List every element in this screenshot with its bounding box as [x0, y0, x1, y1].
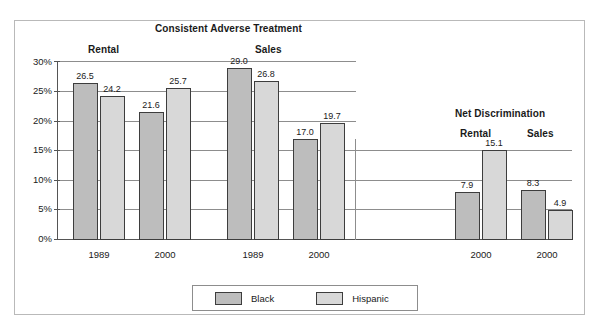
bar-sales-1989-black[interactable] — [227, 68, 252, 240]
y-tick-mark-30 — [54, 61, 60, 62]
section-label-sales-1: Sales — [255, 44, 282, 55]
y-tick-mark-25 — [54, 91, 60, 92]
legend-label-hispanic: Hispanic — [352, 293, 388, 304]
x-label-sales-1989: 1989 — [233, 249, 273, 260]
value-label-net-rental-2000-black: 7.9 — [452, 180, 482, 190]
y-tick-label-5: 5% — [18, 203, 52, 214]
value-label-sales-1989-black: 29.0 — [224, 56, 254, 66]
y-tick-mark-20 — [54, 121, 60, 122]
value-label-net-sales-2000-black: 8.3 — [518, 178, 548, 188]
x-label-sales-2000: 2000 — [299, 249, 339, 260]
y-tick-label-15: 15% — [18, 144, 52, 155]
legend-item-black[interactable]: Black — [215, 292, 274, 305]
page-title: Consistent Adverse Treatment — [155, 23, 302, 34]
bar-net-rental-2000-black[interactable] — [455, 192, 480, 240]
x-label-rental-1989: 1989 — [79, 249, 119, 260]
value-label-net-sales-2000-hispanic: 4.9 — [545, 198, 575, 208]
x-label-rental-2000: 2000 — [145, 249, 185, 260]
value-label-rental-2000-black: 21.6 — [136, 100, 166, 110]
section-label-rental-1: Rental — [88, 44, 119, 55]
y-tick-label-20: 20% — [18, 115, 52, 126]
legend-item-hispanic[interactable]: Hispanic — [316, 292, 388, 305]
y-tick-label-10: 10% — [18, 174, 52, 185]
bar-rental-2000-black[interactable] — [139, 112, 164, 240]
section-title-net-discrimination: Net Discrimination — [455, 108, 545, 119]
legend-swatch-hispanic-icon — [316, 292, 343, 305]
panel-divider — [355, 139, 356, 240]
bar-net-sales-2000-black[interactable] — [521, 190, 546, 240]
x-label-net-rental-2000: 2000 — [461, 249, 501, 260]
bar-rental-1989-hispanic[interactable] — [100, 96, 125, 240]
chart-legend: Black Hispanic — [192, 285, 418, 311]
value-label-sales-2000-black: 17.0 — [290, 127, 320, 137]
y-tick-mark-0 — [54, 239, 60, 240]
bar-sales-2000-hispanic[interactable] — [320, 123, 345, 240]
legend-label-black: Black — [251, 293, 274, 304]
value-label-rental-1989-hispanic: 24.2 — [97, 84, 127, 94]
bar-rental-2000-hispanic[interactable] — [166, 88, 191, 240]
bar-net-sales-2000-hispanic[interactable] — [548, 210, 573, 240]
value-label-rental-1989-black: 26.5 — [70, 71, 100, 81]
value-label-rental-2000-hispanic: 25.7 — [163, 76, 193, 86]
bar-net-rental-2000-hispanic[interactable] — [482, 150, 507, 240]
gridline-30 — [57, 61, 356, 62]
bar-rental-1989-black[interactable] — [73, 83, 98, 240]
y-tick-label-25: 25% — [18, 85, 52, 96]
y-tick-mark-10 — [54, 180, 60, 181]
y-tick-label-30: 30% — [18, 56, 52, 67]
y-tick-mark-15 — [54, 150, 60, 151]
value-label-net-rental-2000-hispanic: 15.1 — [479, 138, 509, 148]
section-label-sales-2: Sales — [527, 128, 554, 139]
y-tick-label-0: 0% — [18, 233, 52, 244]
y-tick-mark-5 — [54, 209, 60, 210]
bar-sales-1989-hispanic[interactable] — [254, 81, 279, 240]
value-label-sales-1989-hispanic: 26.8 — [251, 69, 281, 79]
chart-plot-area: Consistent Adverse Treatment Rental Sale… — [0, 0, 611, 332]
bar-sales-2000-black[interactable] — [293, 139, 318, 240]
x-label-net-sales-2000: 2000 — [527, 249, 567, 260]
legend-swatch-black-icon — [215, 292, 242, 305]
value-label-sales-2000-hispanic: 19.7 — [317, 111, 347, 121]
